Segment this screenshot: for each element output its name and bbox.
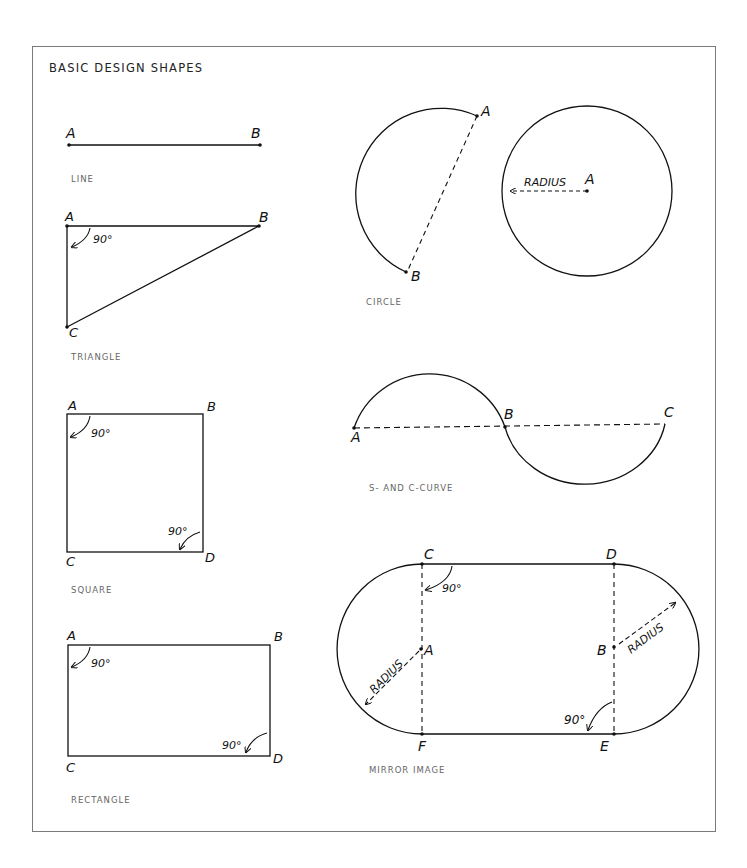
label-curve-a: A	[350, 429, 361, 445]
label-rectangle-angle1: 90°	[91, 657, 111, 670]
label-mirror-b: B	[597, 642, 607, 658]
label-square-a: A	[67, 398, 77, 413]
s-curve-shape: A B C	[350, 374, 674, 484]
circle-full-shape: A RADIUS	[502, 106, 672, 276]
label-triangle-a: A	[64, 209, 74, 224]
shapes-drawing: A B A B C 90° A B C D 90° 90° A B C D 90…	[0, 0, 747, 868]
label-mirror-f: F	[418, 738, 427, 754]
label-mirror-c: C	[424, 546, 434, 562]
square-shape: A B C D 90° 90°	[66, 398, 216, 569]
label-triangle-angle: 90°	[93, 233, 113, 246]
rectangle-shape: A B C D 90° 90°	[66, 628, 283, 775]
label-rectangle-angle2: 90°	[222, 739, 242, 752]
label-circle-full-a: A	[584, 171, 595, 187]
label-triangle-b: B	[259, 209, 269, 225]
label-mirror-angle1: 90°	[442, 582, 462, 595]
label-line-a: A	[65, 125, 76, 141]
line-shape: A B	[65, 125, 262, 147]
label-circle-full-radius: RADIUS	[524, 176, 566, 189]
label-mirror-radius2: RADIUS	[625, 621, 666, 657]
label-mirror-angle2: 90°	[564, 713, 585, 727]
label-rectangle-d: D	[273, 751, 283, 766]
label-curve-b: B	[504, 406, 514, 422]
label-circle-arc-a: A	[480, 103, 491, 119]
label-rectangle-a: A	[66, 628, 76, 643]
circle-arc-shape: A B	[356, 103, 491, 284]
label-square-b: B	[207, 399, 216, 414]
mirror-image-shape: C D A B F E 90° 90° RADIUS RADIUS	[337, 546, 699, 754]
label-curve-c: C	[664, 404, 674, 420]
label-mirror-e: E	[600, 738, 609, 754]
label-triangle-c: C	[69, 325, 79, 340]
triangle-shape: A B C 90°	[64, 209, 269, 340]
label-rectangle-c: C	[66, 760, 76, 775]
label-square-angle2: 90°	[168, 525, 188, 538]
label-mirror-a: A	[423, 642, 434, 658]
label-mirror-d: D	[606, 546, 617, 562]
label-square-angle1: 90°	[91, 427, 111, 440]
label-line-b: B	[251, 125, 261, 141]
label-mirror-radius1: RADIUS	[367, 657, 406, 696]
label-circle-arc-b: B	[411, 268, 421, 284]
label-square-c: C	[66, 554, 76, 569]
label-square-d: D	[205, 550, 215, 565]
label-rectangle-b: B	[274, 629, 283, 644]
